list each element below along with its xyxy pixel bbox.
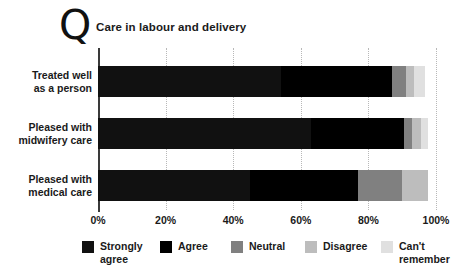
bar-row — [98, 170, 428, 201]
legend-swatch-icon — [82, 241, 94, 253]
y-axis-label: Treated wellas a person — [4, 69, 92, 95]
chart-title: Care in labour and delivery — [96, 21, 246, 33]
bar-row — [98, 118, 428, 149]
x-tick-label: 0% — [90, 214, 105, 226]
bar-segment — [311, 118, 404, 149]
bar-row — [98, 66, 425, 97]
bar-segment — [404, 118, 412, 149]
x-tick-label: 40% — [223, 214, 244, 226]
plot-area — [98, 48, 436, 210]
legend-label: Agree — [178, 240, 208, 253]
bar-segment — [98, 118, 311, 149]
x-axis-ticks: 0%20%40%60%80%100% — [0, 214, 464, 230]
y-axis-label: Pleased withmedical care — [4, 173, 92, 199]
x-tick-label: 100% — [423, 214, 450, 226]
legend-swatch-icon — [160, 241, 172, 253]
y-axis-label: Pleased withmidwifery care — [4, 121, 92, 147]
bar-segment — [250, 170, 358, 201]
bar-segment — [358, 170, 402, 201]
bar-segment — [402, 170, 427, 201]
bar-segment — [98, 66, 281, 97]
x-tick-label: 80% — [358, 214, 379, 226]
chart-legend: Strongly agreeAgreeNeutralDisagreeCan't … — [0, 240, 464, 278]
chart-header: Q Care in labour and delivery — [0, 0, 464, 48]
x-tick-label: 60% — [290, 214, 311, 226]
legend-strongly-agree[interactable]: Strongly agree — [82, 240, 143, 265]
legend-label: Strongly agree — [100, 240, 143, 265]
legend-swatch-icon — [305, 241, 317, 253]
legend-neutral[interactable]: Neutral — [231, 240, 285, 253]
legend-disagree[interactable]: Disagree — [305, 240, 367, 253]
bar-segment — [406, 66, 414, 97]
legend-label: Can't remember — [399, 240, 450, 265]
legend-label: Disagree — [323, 240, 367, 253]
legend-cant-remember[interactable]: Can't remember — [381, 240, 450, 265]
legend-swatch-icon — [231, 241, 243, 253]
y-axis-labels: Treated wellas a personPleased withmidwi… — [0, 48, 92, 210]
bar-segment — [414, 66, 425, 97]
bar-segment — [412, 118, 420, 149]
q-letter-logo: Q — [59, 5, 95, 45]
bar-segment — [98, 170, 250, 201]
bar-segment — [421, 118, 428, 149]
gridline-100 — [436, 48, 438, 210]
bar-segment — [281, 66, 393, 97]
bar-segment — [392, 66, 406, 97]
x-tick-label: 20% — [155, 214, 176, 226]
legend-swatch-icon — [381, 241, 393, 253]
legend-agree[interactable]: Agree — [160, 240, 208, 253]
legend-label: Neutral — [249, 240, 285, 253]
